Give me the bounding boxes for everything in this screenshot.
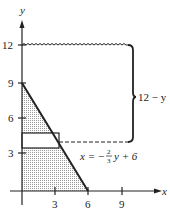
y-tick-label-12: 12 <box>2 39 13 51</box>
equation-lhs: x = − <box>79 150 105 162</box>
x-tick-label-3: 3 <box>52 198 58 210</box>
y-tick-label-3: 3 <box>8 147 14 159</box>
brace-label: 12 − y <box>138 91 167 103</box>
wavy-line <box>22 44 128 46</box>
y-tick-label-6: 6 <box>8 112 14 124</box>
y-axis-label: y <box>19 4 25 16</box>
equation-rhs: y + 6 <box>113 150 138 162</box>
diagram-canvas: y x 12 9 6 3 3 6 9 12 − y x = − 2 3 y + … <box>0 0 170 215</box>
x-tick-label-6: 6 <box>85 198 91 210</box>
curly-brace <box>128 45 136 142</box>
x-tick-label-9: 9 <box>119 198 125 210</box>
equation-fraction-num: 2 <box>107 148 111 156</box>
y-axis-arrow-icon <box>20 20 25 28</box>
y-tick-label-9: 9 <box>8 77 14 89</box>
equation-fraction-den: 3 <box>107 157 111 165</box>
x-axis-arrow-icon <box>154 189 162 194</box>
x-axis-label: x <box>161 185 167 197</box>
